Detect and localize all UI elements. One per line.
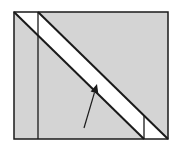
- geometry-diagram: [0, 0, 178, 146]
